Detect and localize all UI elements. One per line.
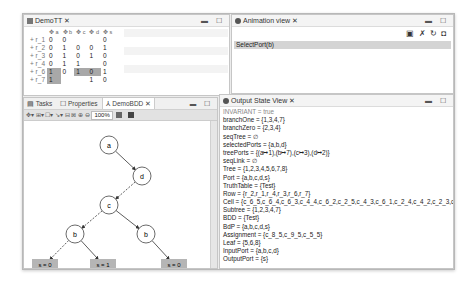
table-cell[interactable]: 0 [47, 60, 61, 68]
row-header[interactable]: + r_3 [28, 52, 47, 60]
column-header-a[interactable]: ✥ a [47, 28, 61, 36]
column-header-c[interactable]: ✥ c [74, 28, 87, 36]
table-cell[interactable]: 1 [61, 52, 75, 60]
color-icon[interactable] [116, 112, 122, 118]
output-icon [223, 98, 229, 104]
minimize-maximize-controls[interactable]: ▬ ☐ [425, 95, 449, 106]
tab-tasks[interactable]: ▤ Tasks [24, 98, 55, 109]
state-variable-line: BdP = {a,b,c,d,s} [223, 223, 454, 231]
table-cell[interactable]: 0 [47, 44, 61, 52]
table-cell[interactable]: 1 [61, 60, 75, 68]
bdd-leaf[interactable]: s = 0 [32, 259, 58, 269]
bdd-node[interactable]: d [133, 167, 151, 185]
truth-table-panel-title[interactable]: DemoTT ✕ ▬ ☐ [24, 15, 229, 27]
table-row[interactable]: + r_1000 [28, 36, 114, 44]
table-cell[interactable]: 0 [61, 36, 75, 44]
table-cell[interactable] [74, 36, 87, 44]
monitor-play-icon[interactable]: ▣ [406, 29, 415, 38]
align-icon[interactable]: ⊟ [65, 112, 70, 118]
table-cell[interactable]: 0 [47, 52, 61, 60]
font-icon[interactable]: ✥▾ [26, 112, 34, 118]
bdd-node[interactable]: c [100, 196, 118, 214]
bdd-node[interactable]: b [66, 225, 84, 243]
bdd-low-edge[interactable] [116, 182, 135, 199]
column-header-d[interactable]: ✥ d [87, 28, 101, 36]
zoom-in-icon[interactable]: ⊕ [78, 112, 83, 118]
column-header-s[interactable]: ✥ s [101, 28, 114, 36]
close-icon[interactable]: ✕ [145, 100, 151, 107]
table-row-stripes [124, 29, 228, 89]
table-cell[interactable]: 0 [101, 36, 114, 44]
tab-demobdd[interactable]: ⅄ DemoBDD ✕ [102, 98, 155, 109]
bdd-high-edge[interactable] [152, 241, 169, 260]
layout-icon[interactable]: ⊞▾ [36, 112, 44, 118]
zoom-out-icon[interactable]: ⊖ [85, 112, 90, 118]
bdd-node[interactable]: a [100, 136, 118, 154]
state-variable-line: Port = {a,b,c,d,s} [223, 174, 454, 182]
row-header[interactable]: + r_6 [28, 68, 47, 76]
table-cell[interactable]: 0 [87, 68, 101, 76]
select-icon[interactable]: ☐▾ [45, 112, 53, 118]
table-cell[interactable]: 0 [87, 44, 101, 52]
table-row[interactable]: + r_40110 [28, 60, 114, 68]
zoom-level-field[interactable]: 100% [91, 111, 112, 120]
column-header-b[interactable]: ✥ b [61, 28, 75, 36]
table-cell[interactable]: 0 [101, 60, 114, 68]
table-cell[interactable]: 0 [47, 36, 61, 44]
table-cell[interactable] [87, 36, 101, 44]
table-cell[interactable]: 0 [101, 52, 114, 60]
table-cell[interactable]: 1 [101, 68, 114, 76]
table-cell[interactable]: 1 [47, 68, 61, 76]
table-cell[interactable]: 0 [61, 68, 75, 76]
event-select-port[interactable]: SelectPort(b) [234, 41, 451, 49]
export-icon[interactable] [128, 112, 134, 118]
bdd-node[interactable]: b [137, 225, 155, 243]
row-header[interactable]: + r_2 [28, 44, 47, 52]
bdd-leaf[interactable]: s = 1 [90, 259, 116, 269]
table-row[interactable]: + r_301010 [28, 52, 114, 60]
bdd-canvas[interactable]: adcbb s = 0s = 1s = 0 [24, 121, 211, 268]
row-header[interactable]: + r_7 [28, 76, 47, 84]
tab-properties[interactable]: ☐ Properties [57, 98, 100, 109]
table-cell[interactable]: 1 [101, 44, 114, 52]
vertical-scrollbar[interactable] [210, 121, 217, 268]
table-cell[interactable]: 0 [101, 76, 114, 84]
row-header[interactable]: + r_4 [28, 60, 47, 68]
table-row[interactable]: + r_7110 [28, 76, 114, 84]
table-cell[interactable] [74, 76, 87, 84]
table-row[interactable]: + r_610101 [28, 68, 114, 76]
table-cell[interactable]: 1 [61, 44, 75, 52]
bdd-high-edge[interactable] [81, 241, 98, 260]
close-icon[interactable]: ✕ [64, 17, 70, 24]
bdd-low-edge[interactable] [82, 211, 102, 228]
bdd-high-edge[interactable] [116, 151, 136, 170]
table-cell[interactable]: 1 [74, 68, 87, 76]
refresh-icon[interactable]: ↻ [430, 29, 438, 38]
minimize-maximize-controls[interactable]: ▬ ☐ [425, 15, 449, 26]
table-cell[interactable]: 0 [74, 52, 87, 60]
close-icon[interactable]: ✕ [292, 17, 298, 24]
bdd-high-edge[interactable] [116, 211, 139, 229]
bdd-leaf[interactable]: s = 0 [161, 259, 187, 269]
table-row[interactable]: + r_201001 [28, 44, 114, 52]
minimize-maximize-controls[interactable]: ▬ ☐ [201, 15, 225, 26]
save-icon[interactable]: ◘ [441, 29, 447, 38]
table-cell[interactable]: 1 [74, 60, 87, 68]
bdd-low-edge[interactable] [50, 240, 69, 259]
table-cell[interactable]: 1 [47, 76, 61, 84]
table-cell[interactable]: 1 [87, 52, 101, 60]
state-variable-line: TruthTable = {Test} [223, 182, 454, 190]
table-cell[interactable]: 0 [74, 44, 87, 52]
table-cell[interactable] [87, 60, 101, 68]
table-cell[interactable]: 1 [87, 76, 101, 84]
animation-view-title[interactable]: Animation view ✕ ▬ ☐ [232, 15, 453, 27]
row-header[interactable]: + r_1 [28, 36, 47, 44]
table-cell[interactable] [61, 76, 75, 84]
output-state-title[interactable]: Output State View ✕ ▬ ☐ [220, 95, 453, 107]
animation-view-panel: Animation view ✕ ▬ ☐ ▣ ✗ ↻ ◘ SelectPort(… [231, 14, 454, 94]
minimize-maximize-controls[interactable]: ▬ ☐ [190, 98, 213, 109]
connector-icon[interactable]: ↘▾ [55, 112, 63, 118]
close-icon[interactable]: ✕ [289, 97, 295, 104]
arrange-icon[interactable]: ⊠ [71, 112, 76, 118]
run-icon[interactable]: ✗ [419, 29, 427, 38]
